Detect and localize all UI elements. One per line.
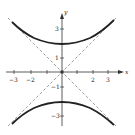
x-axis-arrow-icon: [118, 70, 124, 74]
hyperbola-lower-branch: [12, 102, 114, 125]
x-axis-label: x: [125, 68, 129, 75]
x-tick-label: −2: [26, 76, 35, 83]
y-tick-label: 3: [55, 25, 59, 32]
hyperbola-chart: x y −3 −2 2 3 3 1 −1 −3: [0, 0, 135, 135]
y-tick-label: −1: [51, 83, 60, 90]
x-tick-label: 2: [91, 76, 95, 83]
y-tick-label: −3: [51, 112, 60, 119]
center-point: [61, 71, 64, 74]
x-tick-label: −3: [9, 76, 18, 83]
y-tick-label: 1: [55, 54, 59, 61]
hyperbola-upper-branch: [12, 20, 114, 44]
x-tick-label: 3: [106, 76, 110, 83]
y-axis-label: y: [63, 8, 68, 16]
